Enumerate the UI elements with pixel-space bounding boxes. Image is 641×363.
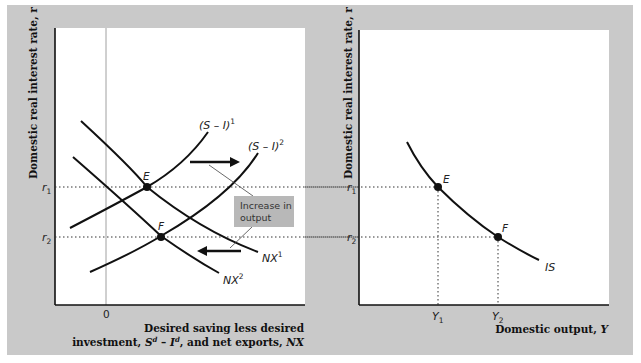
right-point-e-label: E	[443, 173, 450, 185]
s-minus-i-1-label: (S – I)1	[199, 117, 235, 132]
figure-svg: Domestic real interest rate, r r1 r2 0 E…	[0, 0, 641, 363]
zero-tick-label: 0	[103, 308, 110, 320]
right-point-f-label: F	[502, 222, 509, 234]
right-r1-label: r1	[347, 181, 357, 196]
left-point-f	[157, 233, 165, 241]
left-y-axis-label: Domestic real interest rate, r	[27, 7, 39, 179]
right-y-axis-label: Domestic real interest rate, r	[342, 7, 354, 179]
left-x-axis-label-line2: investment, Sd – Id, and net exports, NX	[72, 335, 305, 348]
left-point-e	[143, 183, 151, 191]
left-x-axis-label-line1: Desired saving less desired	[144, 322, 305, 334]
left-r2-label: r2	[42, 231, 52, 246]
right-plot-area	[359, 30, 609, 305]
s-minus-i-2-label: (S – I)2	[248, 138, 284, 153]
right-point-e	[434, 183, 442, 191]
right-point-f	[494, 233, 502, 241]
right-r2-label: r2	[347, 231, 357, 246]
left-point-f-label: F	[158, 220, 165, 232]
is-label: IS	[545, 261, 555, 274]
left-r1-label: r1	[42, 181, 52, 196]
left-point-e-label: E	[143, 170, 150, 182]
callout-text-line1: Increase in	[240, 200, 292, 211]
y1-tick-label: Y1	[432, 310, 444, 325]
right-x-axis-label: Domestic output, Y	[495, 323, 609, 335]
callout-text-line2: output	[240, 212, 272, 223]
right-chart: Domestic real interest rate, r r1 r2 E F…	[305, 7, 610, 335]
